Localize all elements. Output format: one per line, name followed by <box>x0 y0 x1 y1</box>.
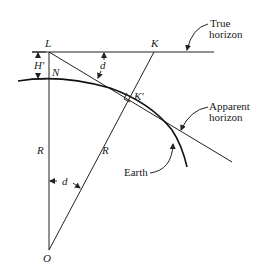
point-k-label: K <box>150 37 159 49</box>
apparent-horizon-label-line2: horizon <box>209 111 243 123</box>
d-center-arrow-right <box>73 183 80 188</box>
true-horizon-label-line2: horizon <box>209 28 243 40</box>
radius-r-right-label: R <box>101 144 109 156</box>
point-n-label: N <box>51 66 60 78</box>
earth-callout-leader <box>150 144 173 173</box>
point-o-label: O <box>43 252 51 264</box>
angle-d-center-label: d <box>62 175 68 187</box>
apparent-horizon-line <box>49 52 232 162</box>
apparent-horizon-callout-leader <box>181 107 208 130</box>
point-l-label: L <box>44 37 51 49</box>
horizon-diagram: L K N K' O H' d d R R True horizon Appar… <box>0 0 257 270</box>
point-k-prime-label: K' <box>133 90 144 102</box>
height-h-prime-label: H' <box>33 59 45 71</box>
angle-d-top-label: d <box>100 59 106 71</box>
true-horizon-callout-leader <box>187 24 208 50</box>
radius-r-left-label: R <box>36 144 44 156</box>
earth-label: Earth <box>124 166 148 178</box>
d-top-arrow-lower <box>98 71 101 78</box>
